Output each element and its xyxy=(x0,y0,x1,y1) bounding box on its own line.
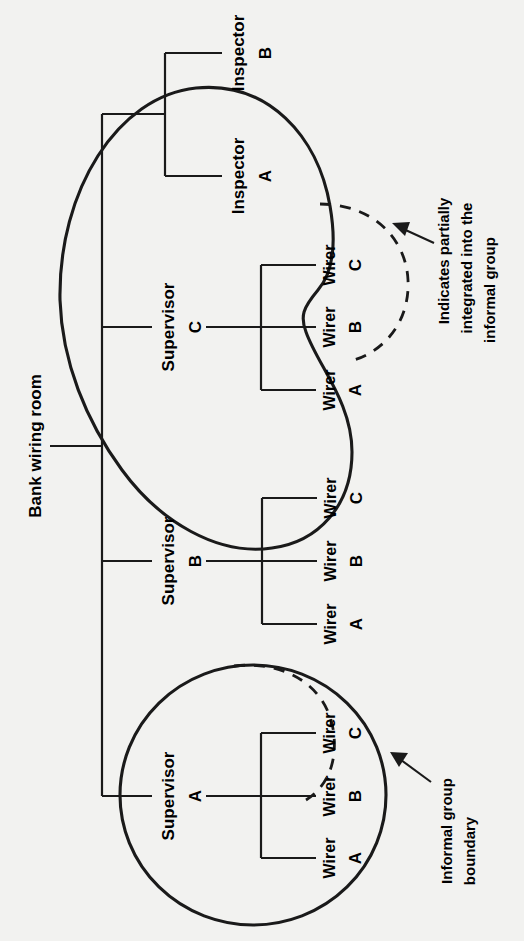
informal-group-boundary-upper xyxy=(60,87,352,549)
node-bank-wiring-room: Bank wiring room xyxy=(26,374,45,518)
node-sup-c-wirer-a-role: Wirer xyxy=(321,370,339,411)
annotation-arrows xyxy=(390,222,434,782)
node-supervisor-b-letter: B xyxy=(186,555,205,567)
node-supervisor-c-role: Supervisor xyxy=(159,283,178,372)
informal-group-boundary-arrow-head xyxy=(390,752,408,767)
node-sup-a-wirer-c-role: Wirer xyxy=(321,713,339,754)
annotation-partially-integrated-line1: Indicates partially xyxy=(435,198,453,325)
node-supervisor-a-role: Supervisor xyxy=(159,752,178,841)
node-sup-b-wirer-c-letter: C xyxy=(347,492,366,504)
node-sup-c-wirer-a-letter: A xyxy=(346,384,365,396)
node-sup-c-wirer-b-role: Wirer xyxy=(321,307,339,348)
tree-connectors xyxy=(50,53,317,858)
node-sup-a-wirer-c-letter: C xyxy=(346,727,365,739)
node-sup-c-wirer-b-letter: B xyxy=(346,321,365,333)
node-sup-b-wirer-b-role: Wirer xyxy=(322,541,340,582)
annotation-partially-integrated-line3: informal group xyxy=(481,237,499,343)
diagram-canvas: Bank wiring room Inspector B Inspector A… xyxy=(0,0,524,941)
partially-integrated-arrow-head xyxy=(392,222,410,236)
node-sup-a-wirer-b-role: Wirer xyxy=(321,776,339,817)
node-sup-a-wirer-b-letter: B xyxy=(346,790,365,802)
node-sup-b-wirer-b-letter: B xyxy=(347,555,366,567)
node-supervisor-a-letter: A xyxy=(186,790,205,802)
node-sup-a-wirer-a-role: Wirer xyxy=(321,838,339,879)
node-sup-a-wirer-a-letter: A xyxy=(346,852,365,864)
node-inspector-b-letter: B xyxy=(256,47,275,59)
node-supervisor-c-letter: C xyxy=(186,321,205,333)
node-sup-c-wirer-c-role: Wirer xyxy=(321,245,339,286)
node-inspector-b-role: Inspector xyxy=(229,15,248,92)
node-sup-c-wirer-c-letter: C xyxy=(346,259,365,271)
annotation-informal-group-boundary-line1: Informal group xyxy=(438,778,456,884)
node-inspector-a-role: Inspector xyxy=(229,138,248,215)
node-supervisor-b-role: Supervisor xyxy=(159,517,178,606)
node-sup-b-wirer-a-letter: A xyxy=(347,618,366,630)
node-sup-b-wirer-a-role: Wirer xyxy=(322,604,340,645)
annotation-informal-group-boundary-line2: boundary xyxy=(461,817,479,885)
node-inspector-a-letter: A xyxy=(256,170,275,182)
node-sup-b-wirer-c-role: Wirer xyxy=(322,478,340,519)
annotation-partially-integrated-line2: integrated into the xyxy=(458,203,476,334)
